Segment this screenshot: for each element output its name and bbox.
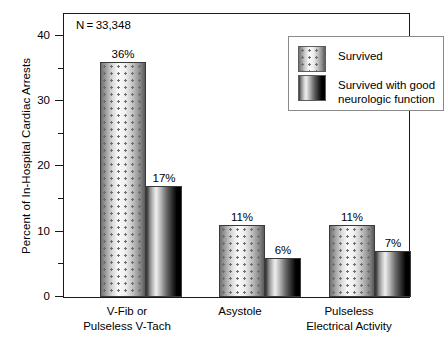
y-tick-label-40: 40 — [10, 29, 50, 41]
bar-label-vfib-survived: 36% — [100, 48, 146, 60]
bar-pea-survived — [329, 225, 375, 297]
legend-item-survived-neuro: Survived with good neurologic function — [298, 75, 435, 106]
sample-size-annotation: N = 33,348 — [76, 19, 131, 31]
bar-vfib-survived — [100, 62, 146, 297]
y-tick-label-20: 20 — [10, 159, 50, 171]
legend-label-survived-neuro: Survived with good neurologic function — [338, 75, 435, 106]
x-category-label-vfib: V-Fib or Pulseless V-Tach — [62, 304, 192, 334]
y-tick-label-10: 10 — [10, 225, 50, 237]
bar-asystole-survived — [219, 225, 265, 297]
y-tick-label-30: 30 — [10, 94, 50, 106]
legend-item-survived: Survived — [298, 46, 383, 72]
x-category-label-pea: Pulseless Electrical Activity — [285, 304, 413, 334]
plot-area: N = 33,348 Survived Survived with good n… — [63, 13, 410, 298]
bar-label-pea-survived-neuro: 7% — [375, 237, 411, 249]
legend-label-survived: Survived — [338, 46, 383, 64]
legend-swatch-survived-icon — [298, 46, 326, 72]
bar-vfib-survived-neuro — [146, 186, 182, 297]
bar-pea-survived-neuro — [375, 251, 411, 297]
bar-label-pea-survived: 11% — [329, 211, 375, 223]
bar-label-asystole-survived-neuro: 6% — [265, 244, 301, 256]
x-category-label-asystole: Asystole — [185, 304, 295, 319]
bar-asystole-survived-neuro — [265, 258, 301, 297]
bar-label-asystole-survived: 11% — [219, 211, 265, 223]
legend-swatch-survived-neuro-icon — [298, 75, 326, 101]
chart-legend: Survived Survived with good neurologic f… — [288, 36, 444, 111]
bar-label-vfib-survived-neuro: 17% — [146, 172, 182, 184]
y-tick-label-0: 0 — [10, 290, 50, 302]
y-axis-title: Percent of In-Hospital Cardiac Arrests — [20, 36, 32, 276]
